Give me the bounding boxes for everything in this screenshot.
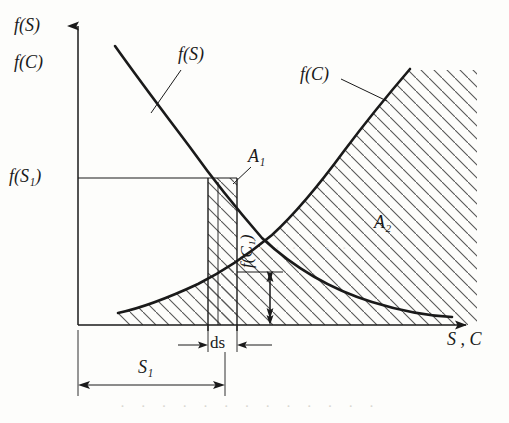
leader-line-fs xyxy=(151,70,181,113)
hatched-region-a2 xyxy=(100,55,500,340)
y-axis-label-fs: f(S) xyxy=(14,16,40,34)
y-tick-label-fs1: f(S₁) xyxy=(9,167,41,185)
bleed-text-bottom: · · · · · · · · · · · · · xyxy=(120,398,380,415)
figure-canvas: f(S) f(C) f(S₁) f(S) f(C) A₁ A₂ S , C ds… xyxy=(0,0,509,423)
y-axis-label-fc: f(C) xyxy=(14,53,43,71)
diagram-drawing xyxy=(0,0,509,423)
x-axis-label: S , C xyxy=(447,330,482,348)
leader-line-a1 xyxy=(233,167,251,184)
curve-label-fc: f(C) xyxy=(300,65,329,83)
fc1-dimension-label: f(C₁) xyxy=(238,235,255,268)
bleed-text-middle: · · · · · · xyxy=(258,240,351,257)
region-label-a1: A₁ xyxy=(248,147,265,165)
s1-dimension-label: S₁ xyxy=(138,358,153,376)
leader-line-fc xyxy=(341,79,387,101)
ds-dimension-label: ds xyxy=(210,334,225,351)
region-label-a2: A₂ xyxy=(374,213,391,231)
curve-label-fs: f(S) xyxy=(178,45,204,63)
